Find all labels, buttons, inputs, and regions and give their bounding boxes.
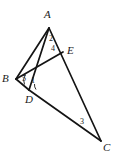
vertex-label-d: D <box>25 94 33 105</box>
angle-label-1: 1 <box>31 77 35 85</box>
geometry-canvas <box>0 0 114 155</box>
segment-ac <box>49 28 101 141</box>
angle-label-4: 4 <box>51 45 55 53</box>
vertex-label-b: B <box>2 73 9 84</box>
segment-group <box>16 28 101 141</box>
vertex-label-e: E <box>67 45 74 56</box>
geometry-figure: A B C D E 1 2 3 4 5 <box>0 0 114 155</box>
angle-label-3: 3 <box>80 118 84 126</box>
angle-label-2: 2 <box>49 35 53 43</box>
vertex-label-a: A <box>44 9 51 20</box>
segment-ab <box>16 28 49 79</box>
angle-label-5: 5 <box>22 75 26 83</box>
vertex-label-c: C <box>103 142 110 153</box>
